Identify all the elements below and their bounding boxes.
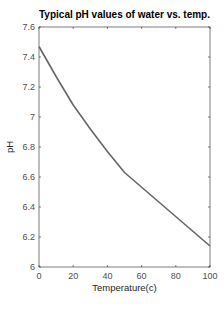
y-tick-label: 6.2 (22, 232, 35, 242)
y-tick-label: 6.4 (22, 202, 35, 212)
x-tick-label: 20 (68, 271, 78, 281)
x-tick-label: 100 (202, 271, 217, 281)
line-chart: 02040608010066.26.46.66.877.27.47.6Tempe… (0, 0, 224, 309)
x-tick-label: 80 (171, 271, 181, 281)
y-tick-label: 6.8 (22, 142, 35, 152)
plot-area (39, 27, 210, 267)
y-axis-label: pH (4, 141, 15, 153)
y-tick-label: 7 (30, 112, 35, 122)
x-tick-label: 60 (137, 271, 147, 281)
x-axis-label: Temperature(c) (92, 282, 156, 293)
y-tick-label: 7.4 (22, 52, 35, 62)
y-tick-label: 6.6 (22, 172, 35, 182)
x-tick-label: 40 (102, 271, 112, 281)
x-tick-label: 0 (36, 271, 41, 281)
y-tick-label: 6 (30, 262, 35, 272)
y-tick-label: 7.6 (22, 22, 35, 32)
y-tick-label: 7.2 (22, 82, 35, 92)
